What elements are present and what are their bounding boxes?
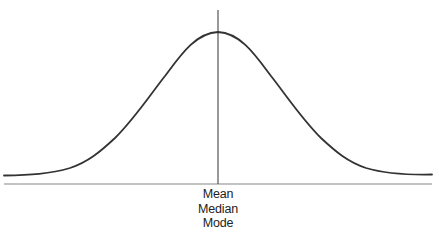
center-labels: Mean Median Mode	[198, 187, 238, 231]
median-label: Median	[198, 202, 238, 217]
mean-label: Mean	[198, 187, 238, 202]
mode-label: Mode	[198, 216, 238, 231]
